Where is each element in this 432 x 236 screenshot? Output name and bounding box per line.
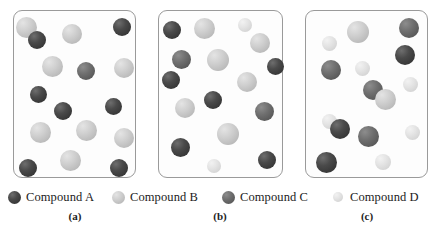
sphere-compound-a	[30, 86, 47, 103]
sphere-compound-b	[207, 49, 229, 71]
sphere-compound-d	[375, 154, 391, 170]
sphere-compound-d	[405, 125, 420, 140]
sphere-compound-b	[375, 89, 396, 110]
sphere-compound-d	[207, 159, 221, 173]
sphere-compound-d	[238, 18, 252, 32]
sphere-compound-b	[217, 123, 239, 145]
sphere-compound-a	[395, 45, 415, 65]
sphere-compound-b	[347, 21, 369, 43]
sphere-compound-a	[162, 71, 180, 89]
sphere-compound-b	[76, 120, 97, 141]
sphere-compound-c	[77, 62, 95, 80]
legend-item-c: Compound C	[222, 188, 308, 206]
sphere-compound-c	[399, 18, 419, 38]
sphere-compound-d	[322, 36, 337, 51]
sphere-compound-b	[194, 18, 215, 39]
legend-swatch-icon-a	[8, 191, 21, 204]
legend-item-d: Compound D	[332, 188, 419, 206]
legend-item-a: Compound A	[8, 188, 94, 206]
sphere-compound-a	[267, 58, 284, 75]
sphere-compound-b	[62, 24, 82, 44]
legend-swatch-icon-c	[222, 191, 235, 204]
sphere-compound-a	[28, 31, 46, 49]
sphere-compound-a	[54, 102, 72, 120]
sphere-compound-a	[113, 18, 131, 36]
legend-label: Compound D	[350, 190, 419, 205]
sphere-compound-d	[403, 77, 418, 92]
sphere-compound-b	[175, 98, 195, 118]
legend-swatch-icon-d	[333, 192, 343, 202]
sphere-compound-a	[105, 98, 122, 115]
sphere-compound-a	[316, 152, 337, 173]
sphere-compound-b	[250, 33, 270, 53]
panel-label: (a)	[45, 210, 105, 222]
sphere-compound-c	[255, 102, 274, 121]
sphere-compound-b	[42, 56, 63, 77]
sphere-compound-b	[114, 58, 134, 78]
sphere-compound-a	[330, 119, 350, 139]
sphere-compound-a	[19, 159, 37, 177]
sphere-compound-a	[204, 91, 222, 109]
sphere-compound-c	[172, 50, 191, 69]
sphere-compound-a	[163, 21, 181, 39]
sphere-compound-c	[358, 126, 379, 147]
panel-label: (c)	[337, 210, 397, 222]
sphere-compound-b	[237, 72, 257, 92]
sphere-compound-b	[60, 150, 81, 171]
sphere-compound-c	[321, 60, 341, 80]
legend: Compound ACompound BCompound CCompound D	[0, 188, 432, 208]
figure-canvas: (a)(b)(c)Compound ACompound BCompound CC…	[0, 0, 432, 236]
sphere-compound-a	[110, 159, 128, 177]
panel-label: (b)	[190, 210, 250, 222]
legend-label: Compound A	[26, 190, 94, 205]
sphere-compound-a	[171, 138, 190, 157]
sphere-compound-a	[258, 151, 276, 169]
legend-swatch-icon-b	[112, 191, 125, 204]
legend-label: Compound C	[240, 190, 308, 205]
sphere-compound-b	[30, 122, 51, 143]
sphere-compound-b	[114, 128, 134, 148]
legend-item-b: Compound B	[112, 188, 198, 206]
sphere-compound-d	[355, 61, 370, 76]
legend-label: Compound B	[130, 190, 198, 205]
